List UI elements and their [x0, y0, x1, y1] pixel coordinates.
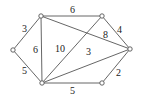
edge-weight-label: 6 — [33, 44, 38, 55]
node-b — [39, 14, 43, 18]
edge-weight-label: 4 — [117, 24, 122, 35]
node-a — [11, 48, 15, 52]
edge-weight-label: 5 — [70, 85, 75, 96]
edge-b-f — [41, 16, 42, 83]
edge-weight-label: 3 — [22, 23, 27, 34]
edge-c-f — [42, 16, 102, 83]
edge-weight-label: 2 — [116, 67, 121, 78]
edge-weight-label: 6 — [70, 4, 75, 15]
edge-weight-label: 5 — [22, 65, 27, 76]
edge-weight-label: 8 — [103, 29, 108, 40]
node-c — [100, 14, 104, 18]
edge-weight-label: 10 — [55, 43, 65, 54]
node-e — [100, 81, 104, 85]
edge-weight-label: 3 — [86, 46, 91, 57]
weighted-graph-diagram: 35668410352 — [0, 0, 141, 100]
node-f — [40, 81, 44, 85]
node-d — [128, 47, 132, 51]
graph-edges — [13, 16, 130, 83]
